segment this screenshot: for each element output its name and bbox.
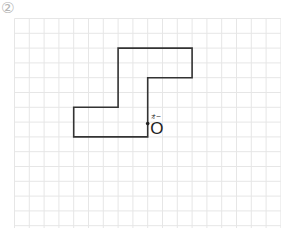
point-o-furigana: オー bbox=[151, 113, 161, 119]
point-o-dot bbox=[146, 122, 150, 126]
grid-diagram: O オー bbox=[0, 0, 281, 228]
point-o-label: O bbox=[150, 119, 163, 138]
